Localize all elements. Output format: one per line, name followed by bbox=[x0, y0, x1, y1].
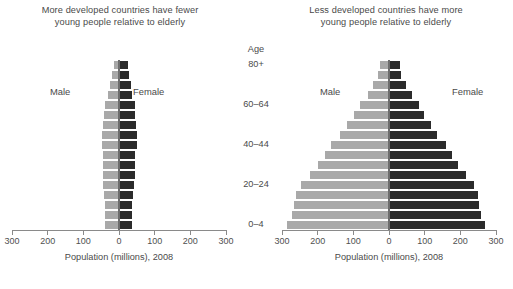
bar-male bbox=[296, 191, 389, 199]
bar-male bbox=[102, 131, 119, 139]
bar-male bbox=[292, 211, 389, 219]
bar-female bbox=[119, 181, 134, 189]
x-axis-ticklabel: 100 bbox=[346, 236, 361, 246]
population-pyramid-figure: More developed countries have fewer youn… bbox=[0, 0, 513, 289]
age-axis-ticklabel: 60–64 bbox=[226, 99, 286, 109]
bar-male bbox=[318, 161, 389, 169]
bar-half-female bbox=[389, 180, 496, 190]
bar-half-female bbox=[119, 200, 226, 210]
bar-male bbox=[378, 71, 389, 79]
bar-half-female bbox=[119, 110, 226, 120]
x-axis-caption-right: Population (millions), 2008 bbox=[282, 252, 496, 262]
x-axis-ticklabel: 200 bbox=[453, 236, 468, 246]
bar-half-female bbox=[389, 100, 496, 110]
bar-male bbox=[102, 141, 119, 149]
bar-female bbox=[389, 101, 419, 109]
bar-half-male bbox=[12, 110, 119, 120]
bar-female bbox=[389, 161, 458, 169]
x-axis-ticklabel: 300 bbox=[4, 236, 19, 246]
bar-female bbox=[389, 171, 466, 179]
series-label-male-right: Male bbox=[320, 86, 340, 97]
bar-half-female bbox=[389, 60, 496, 70]
x-axis-ticklabel: 200 bbox=[183, 236, 198, 246]
center-axis-line-right bbox=[388, 60, 389, 230]
bar-female bbox=[119, 61, 128, 69]
bar-half-male bbox=[282, 100, 389, 110]
x-axis-tick bbox=[317, 230, 318, 235]
age-axis-column: Age 80+60–6440–4420–240–4 bbox=[226, 44, 286, 244]
bar-half-male bbox=[282, 70, 389, 80]
bar-half-female bbox=[389, 150, 496, 160]
panel-title-line2: young people relative to elderly bbox=[272, 16, 500, 28]
bar-male bbox=[360, 101, 389, 109]
bar-half-male bbox=[282, 210, 389, 220]
bar-male bbox=[103, 121, 119, 129]
bar-male bbox=[354, 111, 389, 119]
bar-female bbox=[389, 91, 412, 99]
bar-half-male bbox=[282, 110, 389, 120]
x-axis-tick bbox=[119, 230, 120, 235]
series-label-male-left: Male bbox=[50, 86, 70, 97]
bar-half-male bbox=[12, 220, 119, 230]
bar-female bbox=[119, 161, 135, 169]
panel-title-line1: More developed countries have fewer bbox=[6, 4, 234, 16]
bar-half-male bbox=[282, 190, 389, 200]
bar-female bbox=[119, 101, 135, 109]
x-axis-ticklabel: 0 bbox=[386, 236, 391, 246]
bar-half-male bbox=[282, 200, 389, 210]
bar-half-male bbox=[12, 100, 119, 110]
bar-half-female bbox=[389, 120, 496, 130]
center-axis-line-left bbox=[118, 60, 119, 230]
bar-female bbox=[119, 151, 135, 159]
bar-half-male bbox=[12, 140, 119, 150]
bar-half-male bbox=[282, 60, 389, 70]
bar-half-male bbox=[282, 130, 389, 140]
bar-half-male bbox=[12, 170, 119, 180]
bar-half-male bbox=[12, 200, 119, 210]
bar-female bbox=[389, 191, 478, 199]
bar-half-female bbox=[389, 170, 496, 180]
bar-half-female bbox=[119, 70, 226, 80]
bar-female bbox=[389, 211, 481, 219]
bar-half-male bbox=[282, 120, 389, 130]
bar-male bbox=[103, 171, 119, 179]
bar-female bbox=[389, 201, 479, 209]
bar-female bbox=[119, 191, 133, 199]
bar-half-male bbox=[12, 130, 119, 140]
age-axis-ticklabel: 80+ bbox=[226, 59, 286, 69]
plot-area-more-developed bbox=[12, 60, 226, 230]
bar-female bbox=[389, 81, 406, 89]
bar-male bbox=[347, 121, 389, 129]
age-axis-ticklabel: 20–24 bbox=[226, 179, 286, 189]
bar-half-male bbox=[12, 210, 119, 220]
x-axis-tick bbox=[83, 230, 84, 235]
bar-half-female bbox=[389, 130, 496, 140]
bar-half-female bbox=[389, 110, 496, 120]
bar-half-female bbox=[119, 180, 226, 190]
bar-half-female bbox=[119, 170, 226, 180]
bar-female bbox=[119, 171, 135, 179]
bar-half-female bbox=[119, 60, 226, 70]
bar-female bbox=[389, 61, 400, 69]
bar-male bbox=[368, 91, 389, 99]
bar-male bbox=[331, 141, 389, 149]
bar-half-female bbox=[389, 190, 496, 200]
panel-title-line1: Less developed countries have more bbox=[272, 4, 500, 16]
bar-half-female bbox=[119, 210, 226, 220]
bar-female bbox=[389, 111, 424, 119]
x-axis-ticklabels-left: 3002001000100200300 bbox=[12, 236, 226, 248]
bar-half-male bbox=[12, 180, 119, 190]
bar-half-female bbox=[389, 210, 496, 220]
x-axis-tick bbox=[12, 230, 13, 235]
bar-half-female bbox=[389, 140, 496, 150]
bar-female bbox=[119, 81, 131, 89]
x-axis-ticklabel: 100 bbox=[417, 236, 432, 246]
bar-half-female bbox=[389, 160, 496, 170]
bar-male bbox=[105, 101, 119, 109]
bar-half-male bbox=[282, 150, 389, 160]
bar-half-female bbox=[119, 150, 226, 160]
bar-half-male bbox=[12, 190, 119, 200]
bar-half-male bbox=[12, 60, 119, 70]
bar-female bbox=[119, 91, 132, 99]
bar-half-male bbox=[282, 170, 389, 180]
